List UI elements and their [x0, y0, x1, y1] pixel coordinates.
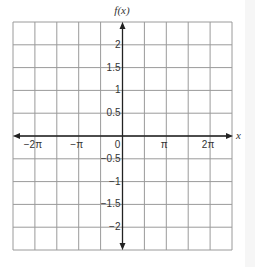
- y-tick-label: 0.5: [107, 107, 121, 118]
- y-axis-label: f(x): [114, 4, 130, 17]
- x-tick-label: 2π: [202, 139, 215, 150]
- x-axis-label: x: [235, 129, 241, 141]
- y-tick-label: 1: [115, 84, 121, 95]
- x-tick-label: −π: [70, 139, 83, 150]
- y-tick-label: 1.5: [107, 62, 121, 73]
- x-tick-label: 0: [115, 139, 121, 150]
- y-axis-down-arrow-icon: [120, 243, 126, 250]
- y-axis-up-arrow-icon: [120, 22, 126, 29]
- y-tick-label: 2: [115, 39, 121, 50]
- coordinate-plane: −2π−π0π2π21.510.5−0.5−1−1.5−2 f(x) x: [0, 0, 255, 267]
- y-tick-label: −2: [109, 221, 121, 232]
- x-tick-label: −2π: [24, 139, 42, 150]
- x-tick-label: π: [161, 139, 168, 150]
- axes: [13, 22, 233, 250]
- y-tick-label: −1.5: [101, 198, 121, 209]
- y-tick-label: −1: [109, 176, 121, 187]
- x-axis-left-arrow-icon: [13, 133, 20, 139]
- y-tick-label: −0.5: [101, 153, 121, 164]
